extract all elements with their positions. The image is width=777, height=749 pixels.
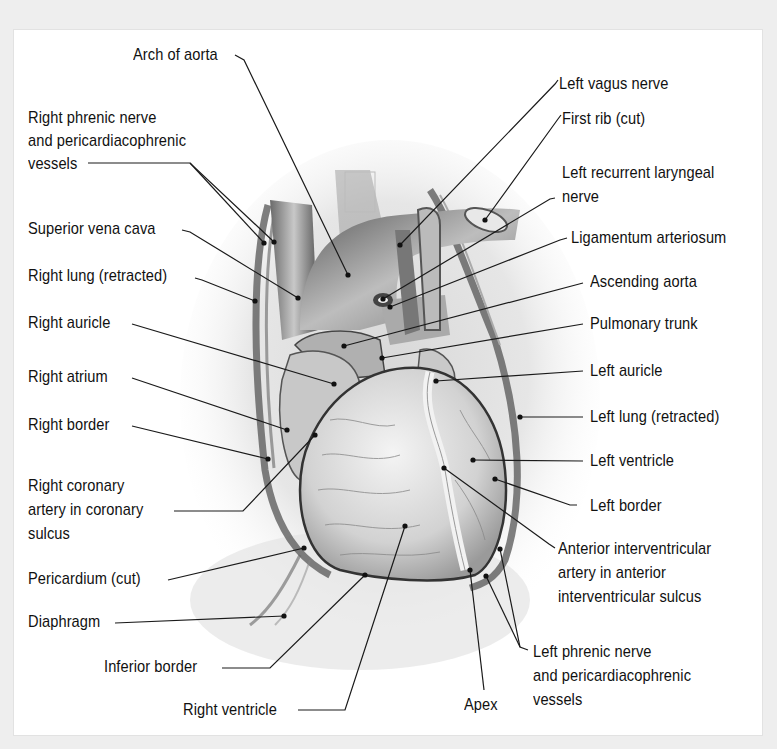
label-left-recurrent-line1: Left recurrent laryngeal — [562, 162, 714, 184]
label-right-atrium: Right atrium — [28, 366, 108, 388]
label-anterior-iv-line3: interventricular sulcus — [558, 586, 701, 608]
label-right-phrenic-line2: and pericardiacophrenic — [28, 130, 186, 152]
label-left-phrenic-line1: Left phrenic nerve — [533, 641, 652, 663]
label-right-border: Right border — [28, 414, 109, 436]
label-pericardium: Pericardium (cut) — [28, 568, 141, 590]
label-left-lung: Left lung (retracted) — [590, 406, 719, 428]
label-first-rib: First rib (cut) — [562, 108, 645, 130]
label-right-lung: Right lung (retracted) — [28, 265, 167, 287]
label-ascending-aorta: Ascending aorta — [590, 271, 697, 293]
label-right-coronary-line1: Right coronary — [28, 475, 124, 497]
label-apex: Apex — [464, 694, 498, 716]
label-left-ventricle: Left ventricle — [590, 450, 674, 472]
label-left-border: Left border — [590, 495, 662, 517]
label-right-phrenic-line1: Right phrenic nerve — [28, 107, 156, 129]
label-left-recurrent-line2: nerve — [562, 186, 599, 208]
label-right-phrenic-line3: vessels — [28, 153, 77, 175]
label-left-auricle: Left auricle — [590, 360, 663, 382]
label-inferior-border: Inferior border — [104, 656, 197, 678]
label-left-phrenic-line2: and pericardiacophrenic — [533, 665, 691, 687]
label-ligamentum-arteriosum: Ligamentum arteriosum — [571, 227, 726, 249]
label-right-auricle: Right auricle — [28, 312, 110, 334]
label-anterior-iv-line2: artery in anterior — [558, 562, 666, 584]
label-right-coronary-line2: artery in coronary — [28, 499, 143, 521]
label-left-vagus-nerve: Left vagus nerve — [559, 73, 668, 95]
label-superior-vena-cava: Superior vena cava — [28, 218, 156, 240]
label-anterior-iv-line1: Anterior interventricular — [558, 538, 711, 560]
label-right-ventricle: Right ventricle — [183, 699, 277, 721]
label-diaphragm: Diaphragm — [28, 611, 100, 633]
label-arch-of-aorta: Arch of aorta — [133, 44, 218, 66]
label-left-phrenic-line3: vessels — [533, 689, 582, 711]
label-right-coronary-line3: sulcus — [28, 523, 70, 545]
label-pulmonary-trunk: Pulmonary trunk — [590, 313, 698, 335]
